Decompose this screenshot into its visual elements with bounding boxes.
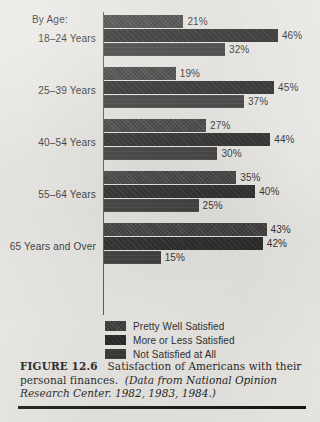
bar-value-label: 35% xyxy=(240,172,260,183)
bar-pretty-well-satisfied xyxy=(104,119,206,132)
bar-row: 46% xyxy=(104,29,302,42)
legend-label: More or Less Satisfied xyxy=(133,335,235,346)
bar-row: 27% xyxy=(104,119,230,132)
bar-value-label: 32% xyxy=(229,44,249,55)
bar-group: 40–54 Years 27% 44% 30% xyxy=(0,119,320,171)
figure-number: FIGURE 12.6 xyxy=(20,360,98,372)
grouped-bar-chart: By Age: 18–24 Years 21% 46% 32% xyxy=(0,0,320,318)
legend-swatch-pretty-well-satisfied xyxy=(105,321,126,331)
bar-pretty-well-satisfied xyxy=(104,223,267,236)
bar-value-label: 42% xyxy=(267,238,287,249)
bar-row: 30% xyxy=(104,147,242,160)
bar-row: 40% xyxy=(104,185,280,198)
bar-value-label: 25% xyxy=(203,200,223,211)
bar-value-label: 27% xyxy=(210,120,230,131)
category-label: 55–64 Years xyxy=(0,189,96,200)
category-label: 40–54 Years xyxy=(0,137,96,148)
bar-row: 43% xyxy=(104,223,291,236)
bar-not-satisfied-at-all xyxy=(104,147,217,160)
bar-row: 44% xyxy=(104,133,295,146)
bar-not-satisfied-at-all xyxy=(104,43,225,56)
bar-row: 19% xyxy=(104,67,200,80)
bar-pretty-well-satisfied xyxy=(104,15,183,28)
bar-row: 37% xyxy=(104,95,268,108)
bar-not-satisfied-at-all xyxy=(104,95,244,108)
bar-more-or-less-satisfied xyxy=(104,81,274,94)
bar-row: 45% xyxy=(104,81,298,94)
bar-group: 65 Years and Over 43% 42% 15% xyxy=(0,223,320,275)
legend-label: Pretty Well Satisfied xyxy=(133,321,224,332)
bar-more-or-less-satisfied xyxy=(104,237,263,250)
bar-value-label: 43% xyxy=(271,224,291,235)
legend-swatch-not-satisfied-at-all xyxy=(105,349,126,359)
bar-not-satisfied-at-all xyxy=(104,199,199,212)
bar-value-label: 40% xyxy=(259,186,279,197)
bar-not-satisfied-at-all xyxy=(104,251,161,264)
bar-group: 25–39 Years 19% 45% 37% xyxy=(0,67,320,119)
category-label: 18–24 Years xyxy=(0,33,96,44)
figure-caption: FIGURE 12.6 Satisfaction of Americans wi… xyxy=(20,360,308,401)
bar-value-label: 45% xyxy=(278,82,298,93)
bar-row: 25% xyxy=(104,199,223,212)
figure-12-6: By Age: 18–24 Years 21% 46% 32% xyxy=(0,0,320,422)
bar-groups: 18–24 Years 21% 46% 32% 25–39 Years xyxy=(0,15,320,275)
bar-more-or-less-satisfied xyxy=(104,133,270,146)
bar-row: 21% xyxy=(104,15,208,28)
bar-value-label: 15% xyxy=(165,252,185,263)
bar-value-label: 30% xyxy=(221,148,241,159)
bar-value-label: 19% xyxy=(180,68,200,79)
bar-row: 35% xyxy=(104,171,261,184)
bar-pretty-well-satisfied xyxy=(104,171,236,184)
bar-group: 18–24 Years 21% 46% 32% xyxy=(0,15,320,67)
legend-item-more-or-less-satisfied: More or Less Satisfied xyxy=(105,334,235,346)
bar-value-label: 46% xyxy=(282,30,302,41)
bar-value-label: 44% xyxy=(274,134,294,145)
bar-row: 42% xyxy=(104,237,287,250)
legend-item-not-satisfied-at-all: Not Satisfied at All xyxy=(105,348,235,360)
bar-more-or-less-satisfied xyxy=(104,185,255,198)
legend-label: Not Satisfied at All xyxy=(133,349,216,360)
bar-more-or-less-satisfied xyxy=(104,29,278,42)
bar-value-label: 21% xyxy=(187,16,207,27)
chart-legend: Pretty Well Satisfied More or Less Satis… xyxy=(105,320,235,362)
bar-pretty-well-satisfied xyxy=(104,67,176,80)
bar-row: 15% xyxy=(104,251,185,264)
legend-swatch-more-or-less-satisfied xyxy=(105,335,126,345)
legend-item-pretty-well-satisfied: Pretty Well Satisfied xyxy=(105,320,235,332)
category-label: 65 Years and Over xyxy=(0,241,96,252)
bar-row: 32% xyxy=(104,43,249,56)
bar-value-label: 37% xyxy=(248,96,268,107)
bar-group: 55–64 Years 35% 40% 25% xyxy=(0,171,320,223)
bottom-divider xyxy=(18,406,306,409)
category-label: 25–39 Years xyxy=(0,85,96,96)
